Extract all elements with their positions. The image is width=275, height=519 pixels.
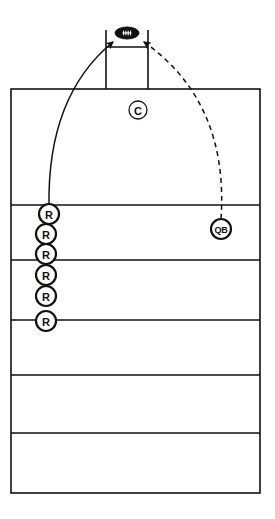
football-drill-diagram: RRRRRRQBC: [0, 0, 275, 519]
player-marker-r-2[interactable]: R: [36, 224, 56, 244]
player-marker-c-label: C: [134, 105, 142, 117]
player-marker-qb-label: QB: [215, 225, 229, 235]
player-marker-c[interactable]: C: [129, 101, 147, 119]
player-marker-r-1-label: R: [45, 209, 53, 221]
player-marker-r-1[interactable]: R: [39, 204, 59, 224]
player-marker-r-3[interactable]: R: [36, 244, 56, 264]
player-marker-r-3-label: R: [42, 249, 50, 261]
diagram-canvas: RRRRRRQBC: [0, 0, 275, 519]
player-marker-r-5[interactable]: R: [36, 286, 56, 306]
football-icon: [115, 27, 139, 39]
player-marker-r-6-label: R: [42, 316, 50, 328]
player-marker-r-2-label: R: [42, 229, 50, 241]
player-marker-r-6[interactable]: R: [36, 311, 56, 331]
player-marker-r-4-label: R: [42, 270, 50, 282]
player-marker-qb[interactable]: QB: [211, 219, 231, 239]
player-marker-r-4[interactable]: R: [36, 265, 56, 285]
player-marker-r-5-label: R: [42, 291, 50, 303]
